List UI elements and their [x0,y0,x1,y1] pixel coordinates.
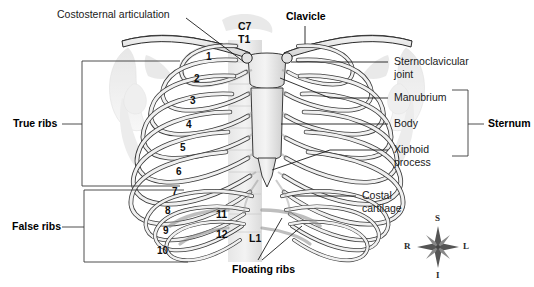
label-sternum: Sternum [488,118,531,130]
rib-number: 9 [163,225,169,236]
compass-right-label: R [404,241,411,251]
label-costal-cartilage-line1: Costal [362,190,392,202]
label-clavicle: Clavicle [286,11,326,23]
compass-superior-label: S [435,213,440,223]
rib-number: 5 [180,142,186,153]
label-l1: L1 [249,232,261,244]
rib-number: 3 [190,95,196,106]
rib-number: 8 [165,205,171,216]
rib-number: 1 [206,51,212,62]
label-c7: C7 [238,20,251,32]
label-xiphoid-process-line1: Xiphoid [394,144,429,156]
vertebra-number: 12 [216,228,228,240]
vertebra-number: 11 [216,208,227,220]
compass-left-label: L [463,241,469,251]
label-false-ribs: False ribs [12,221,61,233]
label-t1: T1 [238,33,250,45]
label-xiphoid-process-line2: process [394,157,431,169]
label-true-ribs: True ribs [13,118,57,130]
label-body: Body [394,118,418,130]
compass-inferior-label: I [436,270,440,280]
thoracic-cage-illustration [0,0,534,287]
rib-number: 2 [194,73,200,84]
anatomy-figure: Costosternal articulation Clavicle C7 T1… [0,0,534,287]
orientation-compass [417,226,459,268]
bracket-sternum [452,90,484,156]
label-sternoclavicular-joint-line1: Sternoclavicular [394,56,469,68]
rib-number: 6 [176,166,182,177]
label-sternoclavicular-joint-line2: joint [394,69,413,81]
rib-number: 10 [157,245,168,256]
rib-number: 7 [172,186,178,197]
label-costal-cartilage-line2: cartilage [362,203,402,215]
label-costosternal-articulation: Costosternal articulation [57,9,170,21]
rib-number: 4 [186,119,192,130]
label-floating-ribs: Floating ribs [232,264,295,276]
label-manubrium: Manubrium [394,92,447,104]
